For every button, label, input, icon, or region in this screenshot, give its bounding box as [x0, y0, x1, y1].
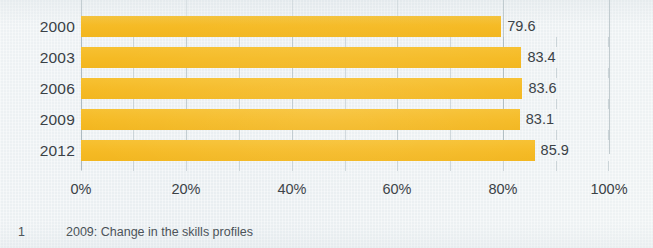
x-tick-label-40: 40%: [262, 180, 322, 198]
category-label-2012: 2012: [0, 140, 75, 161]
value-label-2006: 83.6: [528, 78, 556, 99]
footnote: 1 2009: Change in the skills profiles: [0, 222, 653, 244]
x-tick-label-0: 0%: [51, 180, 111, 198]
value-label-2000: 79.6: [507, 16, 535, 37]
footnote-marker: 1: [18, 222, 25, 242]
category-label-2000: 2000: [0, 16, 75, 37]
value-label-2003: 83.4: [527, 47, 555, 68]
x-tick-label-20: 20%: [156, 180, 216, 198]
bar-2003: [81, 47, 521, 68]
value-label-2009: 83.1: [526, 109, 554, 130]
category-label-2003: 2003: [0, 47, 75, 68]
value-label-2012: 85.9: [541, 140, 569, 161]
bar-2009: [81, 109, 520, 130]
category-label-2009: 2009: [0, 109, 75, 130]
x-tick-label-80: 80%: [473, 180, 533, 198]
x-tick-label-100: 100%: [579, 180, 639, 198]
category-label-2006: 2006: [0, 78, 75, 99]
footnote-text: 2009: Change in the skills profiles: [66, 222, 253, 242]
bar-2012: [81, 140, 535, 161]
gridline-100: [609, 0, 610, 154]
chart-figure: 2000 2003 2006 2009 2012 79.6 83.4 83.6 …: [0, 0, 653, 248]
bar-2006: [81, 78, 522, 99]
bar-2000: [81, 16, 501, 37]
x-tick-label-60: 60%: [367, 180, 427, 198]
